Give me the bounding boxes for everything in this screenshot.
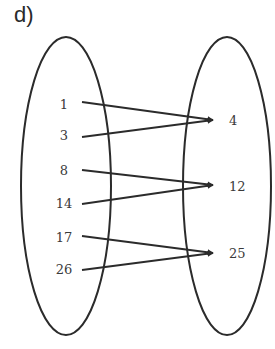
domain-element-label: 17 — [56, 230, 73, 245]
domain-element-label: 1 — [60, 97, 68, 112]
codomain-element-label: 25 — [229, 246, 246, 261]
domain-element-label: 26 — [56, 262, 73, 277]
domain-element-label: 8 — [60, 163, 68, 178]
right-set-ellipse — [183, 37, 271, 335]
mapping-diagram: d) 13814172641225 — [0, 0, 275, 349]
domain-element-label: 3 — [60, 128, 68, 143]
part-label: d) — [14, 2, 34, 28]
mapping-arrow-8-to-12 — [82, 170, 213, 185]
mapping-arrow-17-to-25 — [82, 236, 213, 253]
codomain-element-label: 4 — [229, 113, 237, 128]
mapping-arrow-1-to-4 — [82, 102, 213, 120]
mapping-arrow-26-to-25 — [82, 253, 213, 270]
mapping-arrow-14-to-12 — [82, 185, 213, 204]
mapping-arrow-3-to-4 — [82, 120, 213, 137]
domain-element-label: 14 — [56, 196, 73, 211]
set-mapping-svg: 13814172641225 — [0, 0, 275, 349]
left-set-ellipse — [21, 37, 111, 335]
codomain-element-label: 12 — [229, 179, 246, 194]
